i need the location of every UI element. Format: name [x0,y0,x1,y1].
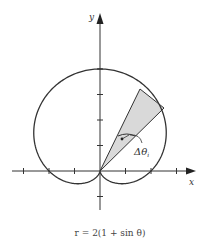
cardioid-diagram: y x Δθi r = 2(1 + sin θ) [0,0,210,244]
x-axis-label: x [189,177,194,187]
figure-caption: r = 2(1 + sin θ) [75,228,146,238]
x-axis-arrow-icon [186,168,196,175]
shaded-sector [100,89,164,171]
delta-theta-dot [121,138,124,141]
y-axis-label: y [88,12,95,22]
angle-label-main: Δθ [133,146,147,157]
angle-label-sub: i [147,151,149,158]
angle-label: Δθi [133,146,149,158]
y-axis-arrow-icon [97,13,104,24]
